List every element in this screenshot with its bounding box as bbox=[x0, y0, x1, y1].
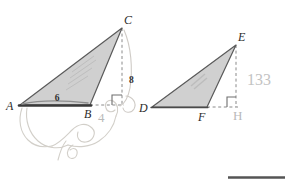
vertex-label-c: C bbox=[124, 13, 133, 27]
length-label-base-abc: 6 bbox=[55, 93, 60, 103]
vertex-label-d: D bbox=[138, 101, 148, 115]
vertex-label-b: B bbox=[84, 107, 92, 121]
vertex-label-a: A bbox=[5, 99, 14, 113]
vertex-label-f: F bbox=[197, 110, 206, 124]
triangle-abc-group: A B C 6 8 bbox=[5, 13, 135, 160]
triangle-def-shape bbox=[152, 45, 236, 107]
pencil-annotation-133: 133 bbox=[247, 71, 271, 88]
length-label-height-abc: 8 bbox=[129, 75, 134, 85]
pencil-annotation-4: 4 bbox=[98, 110, 105, 125]
vertex-label-e: E bbox=[237, 30, 246, 44]
worksheet-page: A B C 6 8 D F bbox=[0, 0, 292, 184]
geometry-figure: A B C 6 8 D F bbox=[0, 0, 292, 184]
triangle-def-group: D F E bbox=[138, 30, 246, 124]
right-angle-marker-def bbox=[227, 97, 236, 107]
right-angle-marker-abc bbox=[112, 95, 122, 105]
pencil-annotation-h: H bbox=[233, 108, 242, 123]
pencil-loop-over-altitude bbox=[120, 30, 135, 112]
triangle-abc-shape bbox=[20, 28, 122, 105]
